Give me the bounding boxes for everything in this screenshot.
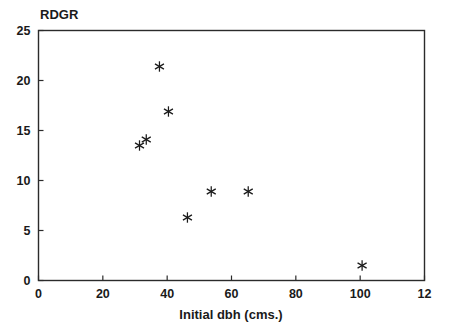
y-tick-label-5: 25	[17, 24, 31, 38]
x-tick-label-2: 40	[160, 287, 174, 301]
x-tick-label-5: 100	[350, 287, 371, 301]
x-tick-label-4: 80	[289, 287, 303, 301]
y-tick-label-0: 0	[24, 274, 31, 288]
x-tick-label-1: 20	[96, 287, 110, 301]
x-tick-label-6: 12	[418, 287, 432, 301]
y-tick-label-4: 20	[17, 74, 31, 88]
y-axis-title: RDGR	[40, 7, 79, 22]
scatter-plot-figure: 02040608010012 0510152025 RDGR Initial d…	[0, 0, 450, 331]
y-tick-label-3: 15	[17, 124, 31, 138]
y-tick-label-1: 5	[24, 224, 31, 238]
figure-background	[0, 0, 450, 331]
x-tick-label-3: 60	[225, 287, 239, 301]
y-tick-label-2: 10	[17, 174, 31, 188]
x-tick-label-0: 0	[35, 287, 42, 301]
x-axis-title: Initial dbh (cms.)	[179, 307, 282, 322]
